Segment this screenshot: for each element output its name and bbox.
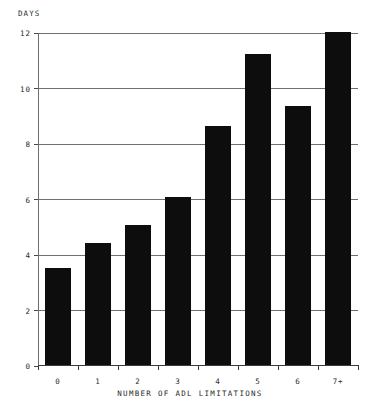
- bar-chart-figure: DAYS 024681012 01234567+ NUMBER OF ADL L…: [0, 0, 380, 417]
- bar: [85, 243, 111, 365]
- x-tick-label: 0: [55, 377, 60, 386]
- y-tick-mark: [34, 310, 38, 311]
- x-tick-mark: [158, 365, 159, 370]
- y-tick-label: 2: [25, 306, 31, 315]
- x-tick-label: 3: [175, 377, 180, 386]
- x-tick-mark: [118, 365, 119, 370]
- y-tick-label: 0: [25, 362, 31, 371]
- x-tick-mark: [38, 365, 39, 370]
- bar: [205, 126, 231, 365]
- x-tick-mark: [318, 365, 319, 370]
- y-tick-label: 6: [25, 195, 31, 204]
- x-tick-label: 4: [215, 377, 220, 386]
- y-tick-label: 10: [20, 84, 31, 93]
- x-tick-label: 2: [135, 377, 140, 386]
- x-tick-mark: [198, 365, 199, 370]
- x-tick-mark: [238, 365, 239, 370]
- x-tick-mark: [358, 365, 359, 370]
- y-tick-label: 4: [25, 251, 31, 260]
- x-axis-label: NUMBER OF ADL LIMITATIONS: [0, 389, 380, 398]
- y-tick-mark: [34, 255, 38, 256]
- y-tick-mark: [34, 33, 38, 34]
- bar: [245, 54, 271, 365]
- bar: [285, 106, 311, 365]
- x-tick-label: 1: [95, 377, 100, 386]
- x-tick-label: 6: [295, 377, 300, 386]
- x-tick-mark: [278, 365, 279, 370]
- bar: [325, 32, 351, 365]
- gridline: [38, 88, 358, 89]
- x-tick-mark: [78, 365, 79, 370]
- gridline: [38, 33, 358, 34]
- y-tick-mark: [34, 199, 38, 200]
- bar: [125, 225, 151, 365]
- x-tick-label: 5: [255, 377, 260, 386]
- y-tick-label: 12: [20, 29, 31, 38]
- y-tick-mark: [34, 88, 38, 89]
- bar: [45, 268, 71, 365]
- y-tick-label: 8: [25, 140, 31, 149]
- bar: [165, 197, 191, 365]
- y-tick-mark: [34, 144, 38, 145]
- plot-area: 024681012 01234567+: [38, 33, 358, 366]
- x-tick-label: 7+: [333, 377, 344, 386]
- y-axis-label: DAYS: [18, 9, 40, 18]
